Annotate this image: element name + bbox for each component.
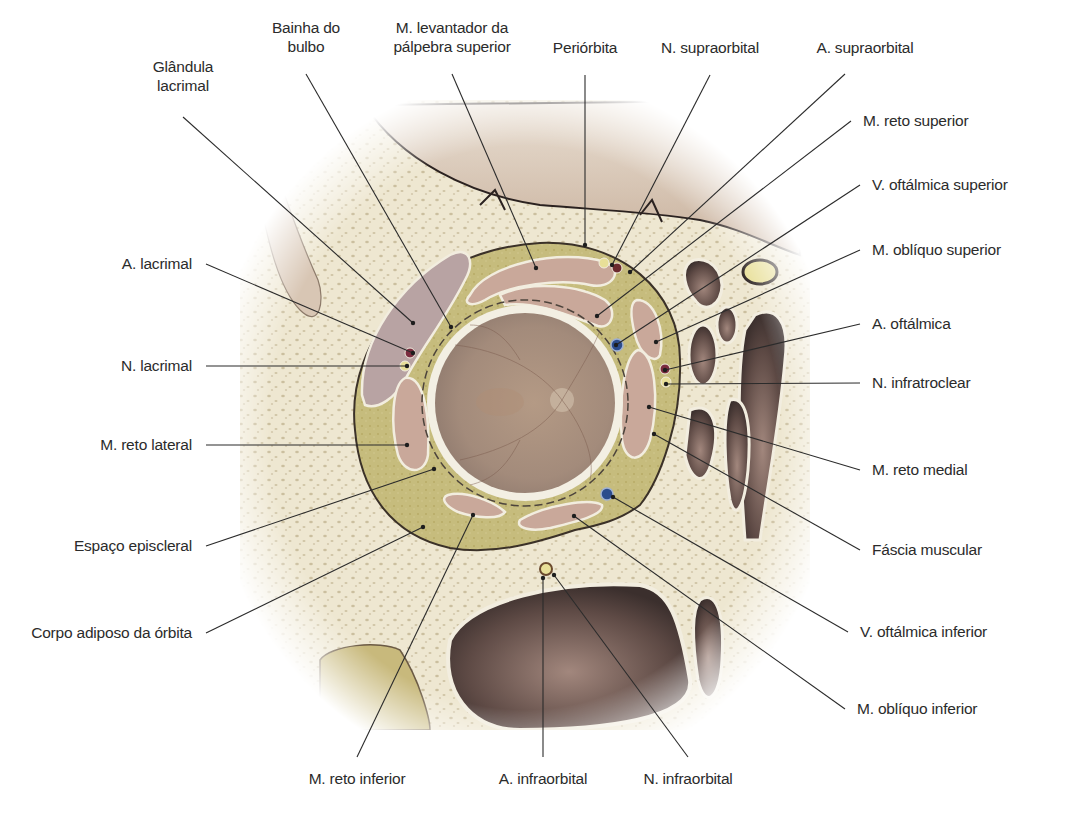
label-m-obliquo-superior: M. oblíquo superior [872, 240, 1001, 259]
label-a-supraorbital: A. supraorbital [785, 38, 945, 57]
leader-dot-v-oftalmica-superior [614, 343, 618, 347]
leader-dot-a-oftalmica [663, 368, 667, 372]
leader-dot-m-reto-superior [595, 314, 599, 318]
leader-dot-n-supraorbital [610, 263, 614, 267]
label-n-lacrimal: N. lacrimal [121, 356, 192, 375]
leader-dot-n-infratroclear [664, 382, 668, 386]
leader-dot-glandula-lacrimal [411, 321, 415, 325]
label-fascia-muscular: Fáscia muscular [872, 540, 982, 559]
leader-dot-m-reto-lateral [405, 443, 409, 447]
label-a-oftalmica: A. oftálmica [872, 314, 951, 333]
leader-dot-periorbita [583, 243, 587, 247]
leader-dot-m-obliquo-superior [654, 340, 658, 344]
leader-dot-a-lacrimal [411, 351, 415, 355]
leader-dot-corpo-adiposo [421, 525, 425, 529]
leader-dot-n-lacrimal [405, 364, 409, 368]
illustration-body [240, 100, 810, 730]
leader-dot-m-obliquo-inferior [572, 514, 576, 518]
label-espaco-episcleral: Espaço episcleral [74, 536, 192, 555]
leader-dot-m-reto-inferior [471, 513, 475, 517]
label-m-reto-lateral: M. reto lateral [100, 435, 192, 454]
label-glandula-lacrimal: Glândula lacrimal [103, 57, 263, 95]
leader-dot-fascia-muscular [652, 432, 656, 436]
label-n-supraorbital: N. supraorbital [630, 38, 790, 57]
leader-dot-bainha-do-bulbo [449, 325, 453, 329]
leader-dot-m-reto-medial [647, 405, 651, 409]
label-v-oftalmica-inferior: V. oftálmica inferior [860, 622, 987, 641]
leader-dot-v-oftalmica-inferior [611, 495, 615, 499]
label-n-infratroclear: N. infratroclear [872, 373, 970, 392]
label-m-reto-inferior: M. reto inferior [277, 769, 437, 788]
label-n-infraorbital: N. infraorbital [608, 769, 768, 788]
leader-dot-espaco-episcleral [432, 467, 436, 471]
label-corpo-adiposo: Corpo adiposo da órbita [31, 623, 192, 642]
leader-dot-a-infraorbital [541, 576, 545, 580]
label-a-infraorbital: A. infraorbital [463, 769, 623, 788]
leader-dot-m-levantador [534, 266, 538, 270]
label-bainha-do-bulbo: Bainha do bulbo [226, 18, 386, 56]
label-m-reto-medial: M. reto medial [872, 460, 967, 479]
leader-dot-n-infraorbital [552, 573, 556, 577]
label-v-oftalmica-superior: V. oftálmica superior [872, 175, 1008, 194]
leader-dot-a-supraorbital [628, 270, 632, 274]
label-m-reto-superior: M. reto superior [863, 111, 968, 130]
label-a-lacrimal: A. lacrimal [122, 254, 192, 273]
label-m-obliquo-inferior: M. oblíquo inferior [857, 699, 977, 718]
